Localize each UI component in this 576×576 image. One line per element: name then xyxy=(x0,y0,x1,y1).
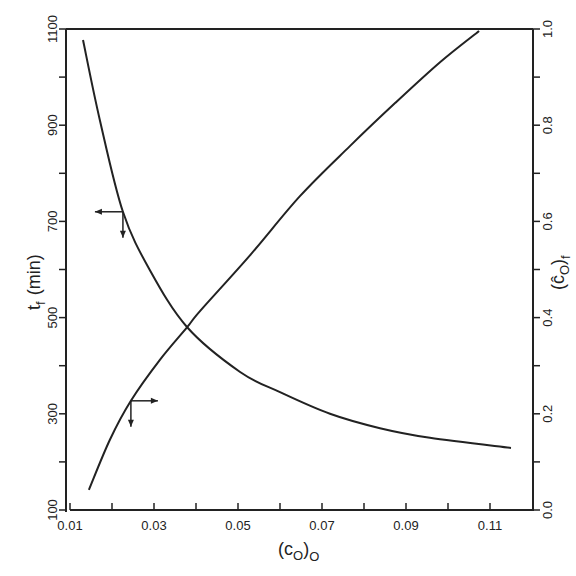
series-lines xyxy=(83,31,511,490)
y-left-tick-label: 1100 xyxy=(45,15,60,43)
y-right-label-main: ĉ xyxy=(548,275,568,284)
y-right-tick-label: 0.2 xyxy=(540,405,555,423)
arrow-head xyxy=(120,231,126,238)
x-label-outer-sub: O xyxy=(309,549,319,564)
plot-frame xyxy=(66,29,533,512)
y-right-tick-label: 0.8 xyxy=(540,116,555,134)
chart: 0.010.030.050.070.090.11 100300500700900… xyxy=(0,0,576,576)
series-line-right-axis xyxy=(89,31,479,490)
arrow-head xyxy=(151,398,158,404)
x-tick-label: 0.01 xyxy=(57,518,82,533)
x-tick-label: 0.03 xyxy=(141,518,166,533)
y-right-ticks: 0.00.20.40.60.81.0 xyxy=(533,20,555,519)
y-left-tick-label: 900 xyxy=(45,114,60,136)
y-right-tick-label: 0.6 xyxy=(540,212,555,230)
y-right-tick-label: 0.4 xyxy=(540,309,555,327)
y-left-label-unit: (min) xyxy=(24,254,44,295)
y-right-label-outer-sub: f xyxy=(558,255,573,259)
y-left-axis-label: tf(min) xyxy=(24,254,48,310)
y-left-tick-label: 500 xyxy=(45,307,60,329)
arrow-head xyxy=(128,420,134,427)
x-tick-label: 0.07 xyxy=(309,518,334,533)
x-axis-label: (cO)O xyxy=(278,539,319,564)
y-right-axis-label: (ĉO)f xyxy=(548,255,573,290)
axis-indicator-arrows xyxy=(95,209,158,427)
y-left-tick-label: 700 xyxy=(45,211,60,233)
series-line-left-axis xyxy=(83,40,511,448)
y-left-tick-label: 100 xyxy=(45,499,60,521)
y-right-tick-label: 0.0 xyxy=(540,501,555,519)
x-label-main: (c xyxy=(278,539,293,559)
x-label-sub: O xyxy=(293,548,303,563)
y-left-tick-label: 300 xyxy=(45,403,60,425)
y-right-label-sub: O xyxy=(557,265,572,275)
x-tick-label: 0.11 xyxy=(478,518,502,533)
y-left-ticks: 1003005007009001100 xyxy=(45,15,66,521)
x-tick-label: 0.05 xyxy=(225,518,250,533)
x-tick-label: 0.09 xyxy=(393,518,418,533)
arrow-head xyxy=(95,209,102,215)
y-left-label-sub: f xyxy=(33,301,48,305)
x-ticks: 0.010.030.050.070.090.11 xyxy=(57,503,502,533)
y-right-tick-label: 1.0 xyxy=(540,20,555,38)
